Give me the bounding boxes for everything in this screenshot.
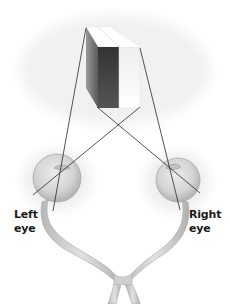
right-eye-label-line2: eye <box>189 222 221 236</box>
binocular-vision-diagram: Left eye Right eye <box>0 0 230 304</box>
left-eye-label-line1: Left <box>14 208 38 222</box>
left-eye-label-line2: eye <box>14 222 38 236</box>
right-eye-icon <box>156 158 200 202</box>
right-eye-label-line1: Right <box>189 208 221 222</box>
left-eye-label: Left eye <box>14 208 38 236</box>
right-eye-label: Right eye <box>189 208 221 236</box>
diagram-artwork <box>0 0 230 304</box>
